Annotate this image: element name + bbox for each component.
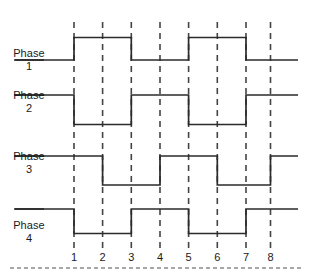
phase-label-2-number: 2 (8, 102, 50, 115)
phase-4-waveform (14, 209, 298, 234)
phase-label-1: Phase 1 (8, 47, 50, 73)
phase-2-waveform (14, 95, 298, 125)
label-lead-lines (15, 60, 44, 209)
phase-label-3-number: 3 (8, 163, 50, 176)
phase-label-4: Phase 4 (8, 219, 50, 245)
phase-label-3: Phase 3 (8, 150, 50, 176)
phase-label-1-number: 1 (8, 60, 50, 73)
phase-label-2-name: Phase (8, 89, 50, 102)
tick-label-2: 2 (96, 251, 110, 263)
phase-label-4-number: 4 (8, 232, 50, 245)
phase-label-2: Phase 2 (8, 89, 50, 115)
phase-1-waveform (14, 38, 298, 61)
phase-label-4-name: Phase (8, 219, 50, 232)
tick-label-6: 6 (210, 251, 224, 263)
tick-label-1: 1 (67, 251, 81, 263)
waveform-traces (14, 38, 298, 234)
phase-3-waveform (14, 156, 298, 185)
phase-label-3-name: Phase (8, 150, 50, 163)
tick-label-4: 4 (153, 251, 167, 263)
timing-diagram-figure: Phase 1 Phase 2 Phase 3 Phase 4 12345678 (0, 0, 312, 277)
phase-label-1-name: Phase (8, 47, 50, 60)
tick-label-5: 5 (182, 251, 196, 263)
tick-label-3: 3 (124, 251, 138, 263)
tick-label-7: 7 (239, 251, 253, 263)
tick-guide-lines (74, 22, 271, 250)
tick-label-8: 8 (264, 251, 278, 263)
